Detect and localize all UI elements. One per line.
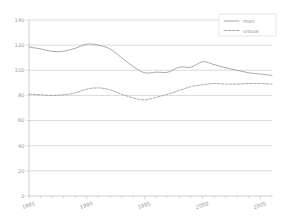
chart-container: 020406080100120140 19851990199520002005 …	[0, 0, 286, 222]
y-tick-label: 60	[18, 117, 25, 123]
y-tick-label: 80	[18, 92, 25, 98]
chart-legend: manvrouw	[219, 14, 276, 36]
legend-label-vrouw: vrouw	[243, 28, 260, 34]
y-tick-label: 0	[21, 193, 24, 199]
y-tick-label: 120	[15, 42, 25, 48]
y-tick-label: 20	[18, 168, 25, 174]
legend-label-man: man	[243, 18, 255, 24]
y-tick-label: 140	[15, 17, 25, 23]
y-tick-label: 100	[15, 67, 25, 73]
line-chart: 020406080100120140 19851990199520002005 …	[0, 0, 286, 222]
y-tick-label: 40	[18, 143, 25, 149]
